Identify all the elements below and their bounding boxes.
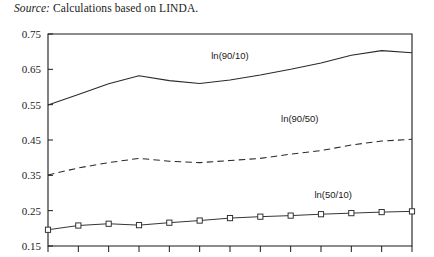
series-label: ln(90/50): [281, 113, 319, 124]
series-label: ln(50/10): [314, 189, 352, 200]
y-axis-tick-labels: 0.750.650.550.450.350.250.15: [22, 28, 42, 252]
series-labels: ln(90/10)ln(90/50)ln(50/10): [211, 50, 352, 200]
data-point-marker: [288, 213, 293, 218]
data-point-marker: [136, 223, 141, 228]
y-axis-tick-label: 0.65: [22, 63, 42, 75]
data-point-marker: [106, 221, 111, 226]
plot-frame: [48, 34, 412, 246]
data-point-marker: [349, 211, 354, 216]
y-axis-tick-label: 0.35: [22, 169, 42, 181]
y-axis-tick-label: 0.55: [22, 99, 42, 111]
y-axis-tick-label: 0.75: [22, 28, 42, 40]
data-point-marker: [167, 220, 172, 225]
x-axis-tick-marks: [48, 246, 412, 252]
y-axis-tick-label: 0.45: [22, 134, 42, 146]
y-axis-tick-marks: [48, 34, 53, 246]
series-line-ln9050: [48, 139, 412, 175]
y-axis-tick-label: 0.15: [22, 240, 42, 252]
y-axis-tick-label: 0.25: [22, 205, 42, 217]
data-point-marker: [318, 212, 323, 217]
data-point-marker: [197, 218, 202, 223]
series-lines: [48, 51, 412, 230]
series-markers: [45, 209, 414, 233]
data-point-marker: [76, 223, 81, 228]
data-point-marker: [45, 227, 50, 232]
data-point-marker: [379, 209, 384, 214]
data-point-marker: [409, 209, 414, 214]
line-chart: 0.750.650.550.450.350.250.15 ln(90/10)ln…: [0, 0, 434, 257]
data-point-marker: [227, 215, 232, 220]
series-label: ln(90/10): [211, 50, 249, 61]
data-point-marker: [258, 214, 263, 219]
